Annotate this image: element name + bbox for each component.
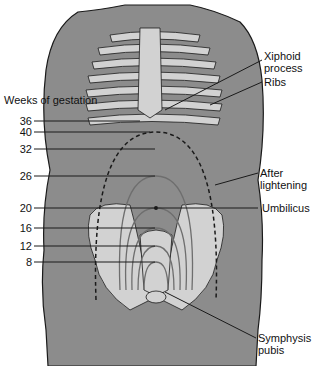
week-label-16: 16 bbox=[8, 222, 32, 234]
after-lightening-label: Afterlightening bbox=[260, 167, 307, 191]
umbilicus-label: Umbilicus bbox=[262, 202, 310, 214]
week-label-20: 20 bbox=[8, 202, 32, 214]
symphysis-pubis-label: Symphysispubis bbox=[258, 332, 311, 356]
week-label-12: 12 bbox=[8, 240, 32, 252]
week-label-26: 26 bbox=[8, 170, 32, 182]
weeks-of-gestation-title: Weeks of gestation bbox=[4, 94, 97, 106]
week-label-32: 32 bbox=[8, 143, 32, 155]
week-label-40: 40 bbox=[8, 126, 32, 138]
ribs-label: Ribs bbox=[264, 76, 286, 88]
week-label-8: 8 bbox=[8, 256, 32, 268]
xiphoid-process-label: Xiphoidprocess bbox=[264, 50, 303, 74]
